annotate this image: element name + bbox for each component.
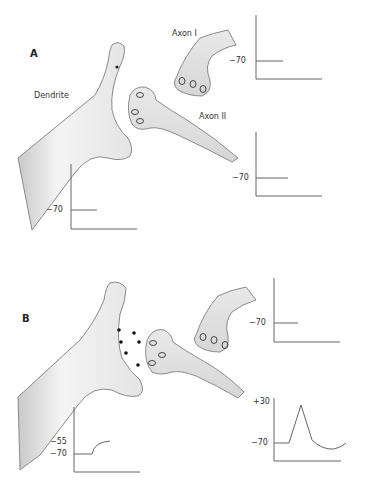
trace-a-axon1 — [256, 15, 322, 79]
tick-b-axon1-rest: −70 — [249, 319, 266, 327]
panel-label-b: B — [22, 314, 30, 324]
trace-a-dendrite — [71, 164, 137, 229]
synapse-diagram — [0, 0, 367, 487]
tick-a-axon2-rest: −70 — [232, 174, 249, 182]
panel-b — [18, 278, 346, 472]
trace-b-dendrite — [74, 407, 140, 472]
trace-a-axon2 — [256, 132, 322, 196]
dendrite-a — [18, 43, 132, 230]
trace-b-axon2 — [274, 398, 346, 461]
axon2-label: Axon II — [199, 113, 226, 121]
tick-b-axon2-peak: +30 — [253, 398, 270, 406]
trace-b-axon1 — [274, 278, 340, 342]
axon2-a — [128, 87, 238, 162]
tick-b-dendrite-threshold: −55 — [50, 438, 67, 446]
dendrite-label: Dendrite — [34, 92, 69, 100]
axon1-label: Axon I — [172, 30, 197, 38]
tick-b-dendrite-rest: −70 — [50, 450, 67, 458]
tick-a-axon1-rest: −70 — [229, 57, 246, 65]
panel-a — [18, 15, 322, 230]
tick-a-dendrite-rest: −70 — [46, 206, 63, 214]
dendrite-b — [18, 282, 143, 470]
panel-label-a: A — [30, 49, 38, 59]
tick-b-axon2-rest: −70 — [251, 439, 268, 447]
axon1-b — [194, 287, 256, 352]
